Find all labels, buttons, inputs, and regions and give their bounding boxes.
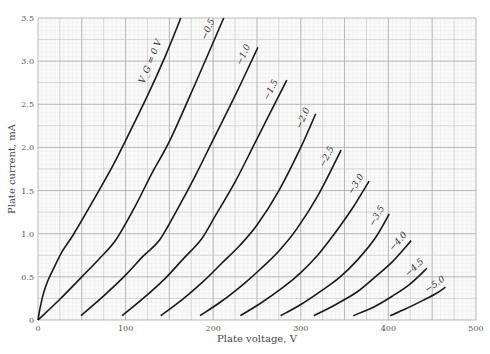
- y-tick-label: 1.0: [21, 230, 34, 239]
- plate-characteristics-chart: V_G = 0 V−0.5−1.0−1.5−2.0−2.5−3.0−3.5−4.…: [0, 0, 490, 354]
- y-tick-label: 0: [29, 316, 34, 325]
- x-axis-label: Plate voltage, V: [217, 333, 298, 344]
- y-tick-label: 1.5: [21, 187, 34, 196]
- y-tick-label: 3.5: [21, 14, 34, 23]
- x-tick-label: 500: [468, 324, 483, 333]
- plot-area: V_G = 0 V−0.5−1.0−1.5−2.0−2.5−3.0−3.5−4.…: [38, 17, 476, 320]
- y-tick-label: 3.0: [21, 57, 34, 66]
- y-axis-ticks: 00.51.01.52.02.53.03.5: [21, 14, 34, 325]
- x-tick-label: 300: [293, 324, 308, 333]
- y-tick-label: 2.0: [21, 143, 34, 152]
- y-tick-label: 0.5: [21, 273, 34, 282]
- x-tick-label: 200: [206, 324, 221, 333]
- x-tick-label: 100: [118, 324, 133, 333]
- x-axis-ticks: 0100200300400500: [35, 324, 483, 333]
- x-tick-label: 400: [381, 324, 396, 333]
- x-tick-label: 0: [35, 324, 40, 333]
- y-axis-label: Plate current, mA: [6, 123, 17, 214]
- y-tick-label: 2.5: [21, 100, 34, 109]
